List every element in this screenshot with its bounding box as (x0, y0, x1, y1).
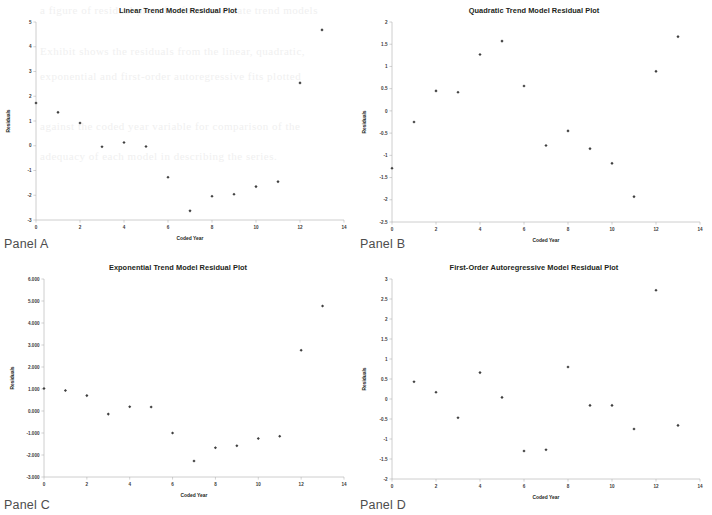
plot-area: 02468101214-3.000-2.000-1.0000.0001.0002… (0, 257, 356, 514)
data-point (254, 185, 257, 188)
data-point (320, 28, 323, 31)
svg-text:1: 1 (385, 357, 388, 362)
svg-text:-2: -2 (27, 193, 32, 198)
data-point (278, 435, 281, 438)
data-point (34, 101, 37, 104)
svg-text:4: 4 (128, 482, 131, 487)
svg-text:10: 10 (256, 482, 262, 487)
svg-text:4: 4 (479, 227, 482, 232)
svg-text:-2.000: -2.000 (26, 453, 39, 458)
svg-text:2.000: 2.000 (28, 365, 40, 370)
panel-label: Panel D (360, 498, 406, 512)
svg-text:Residuals: Residuals (6, 109, 11, 132)
svg-text:Residuals: Residuals (10, 366, 15, 389)
svg-text:6: 6 (167, 225, 170, 230)
svg-text:8: 8 (567, 227, 570, 232)
svg-text:2: 2 (435, 484, 438, 489)
svg-text:6.000: 6.000 (28, 277, 40, 282)
svg-text:8: 8 (567, 484, 570, 489)
svg-text:5.000: 5.000 (28, 299, 40, 304)
data-point (588, 147, 591, 150)
data-point (214, 446, 217, 449)
svg-text:1.5: 1.5 (381, 337, 388, 342)
svg-text:3.000: 3.000 (28, 343, 40, 348)
svg-text:14: 14 (697, 484, 703, 489)
data-point (412, 120, 415, 123)
plot-area: 02468101214-2.5-2-1.5-1-0.500.511.52Code… (356, 0, 712, 257)
data-point (210, 195, 213, 198)
data-point (166, 176, 169, 179)
svg-text:12: 12 (299, 482, 305, 487)
data-point (478, 371, 481, 374)
data-point (456, 416, 459, 419)
svg-text:0: 0 (391, 227, 394, 232)
data-point (500, 40, 503, 43)
data-point (321, 305, 324, 308)
svg-text:2: 2 (385, 20, 388, 25)
data-point (456, 91, 459, 94)
svg-text:-2: -2 (383, 197, 388, 202)
svg-text:Coded Year: Coded Year (533, 238, 560, 243)
data-point (478, 53, 481, 56)
svg-text:14: 14 (697, 227, 703, 232)
data-point (610, 404, 613, 407)
data-point (107, 413, 110, 416)
svg-text:0.5: 0.5 (381, 377, 388, 382)
svg-text:0: 0 (29, 143, 32, 148)
svg-text:4.000: 4.000 (28, 321, 40, 326)
data-point (500, 396, 503, 399)
data-point (654, 70, 657, 73)
data-point (171, 431, 174, 434)
svg-text:-1: -1 (27, 168, 32, 173)
svg-text:0: 0 (43, 482, 46, 487)
svg-text:10: 10 (253, 225, 259, 230)
svg-text:14: 14 (341, 225, 347, 230)
svg-text:6: 6 (171, 482, 174, 487)
svg-text:-0.5: -0.5 (380, 131, 388, 136)
data-point (257, 437, 260, 440)
data-point (566, 129, 569, 132)
svg-text:-1: -1 (383, 437, 388, 442)
data-point (522, 449, 525, 452)
data-point (128, 405, 131, 408)
svg-text:-1: -1 (383, 153, 388, 158)
svg-text:8: 8 (214, 482, 217, 487)
panel-b: Quadratic Trend Model Residual Plot 0246… (356, 0, 712, 257)
data-point (588, 404, 591, 407)
data-point (434, 391, 437, 394)
data-point (412, 380, 415, 383)
scatter-plot-quadratic: 02468101214-2.5-2-1.5-1-0.500.511.52Code… (356, 0, 712, 257)
data-point (632, 427, 635, 430)
svg-text:0: 0 (385, 109, 388, 114)
svg-text:0: 0 (385, 397, 388, 402)
data-point (85, 394, 88, 397)
data-point (122, 141, 125, 144)
svg-text:10: 10 (609, 484, 615, 489)
data-point (144, 145, 147, 148)
svg-text:2: 2 (29, 94, 32, 99)
svg-text:-3.000: -3.000 (26, 475, 39, 480)
svg-text:0: 0 (391, 484, 394, 489)
svg-text:12: 12 (297, 225, 303, 230)
panel-c: Exponential Trend Model Residual Plot 02… (0, 257, 356, 514)
svg-text:2: 2 (86, 482, 89, 487)
svg-text:4: 4 (123, 225, 126, 230)
svg-text:2: 2 (385, 317, 388, 322)
svg-text:4: 4 (479, 484, 482, 489)
svg-text:3: 3 (29, 69, 32, 74)
svg-text:5: 5 (29, 20, 32, 25)
svg-text:Residuals: Residuals (362, 110, 367, 133)
svg-text:1.000: 1.000 (28, 387, 40, 392)
data-point (188, 209, 191, 212)
svg-text:-2.5: -2.5 (380, 220, 388, 225)
data-point (300, 349, 303, 352)
svg-text:Coded Year: Coded Year (533, 495, 560, 500)
svg-text:-3: -3 (27, 218, 32, 223)
svg-text:2: 2 (79, 225, 82, 230)
data-point (100, 145, 103, 148)
data-point (150, 405, 153, 408)
data-point (192, 459, 195, 462)
svg-text:Coded Year: Coded Year (181, 493, 208, 498)
svg-text:2.5: 2.5 (381, 297, 388, 302)
data-point (676, 424, 679, 427)
